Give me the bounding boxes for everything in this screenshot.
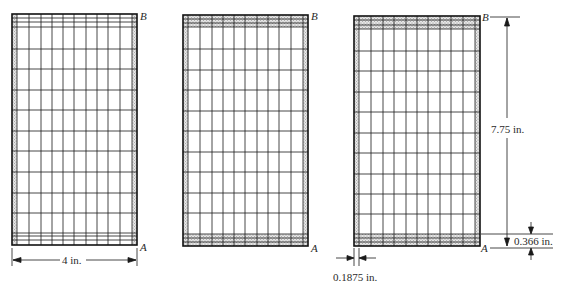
width-label: 4 in. <box>62 254 82 266</box>
slab-panel-3 <box>354 16 480 246</box>
slab-panel-2 <box>183 15 308 246</box>
label-b-1: B <box>140 10 147 22</box>
shaded-strip-top <box>183 15 308 27</box>
grid-lines <box>12 14 137 245</box>
edge-band-label: 0.366 in. <box>514 235 553 247</box>
height-label: 7.75 in. <box>491 123 525 135</box>
edge-strip-dimension <box>336 248 376 266</box>
grid-lines <box>183 15 308 246</box>
slab-panel-1 <box>12 14 137 245</box>
diagram-canvas: B A 4 in. <box>0 0 568 294</box>
label-a-3: A <box>480 242 488 254</box>
grid-lines <box>354 16 480 246</box>
label-a-1: A <box>139 241 147 253</box>
edge-strip-label: 0.1875 in. <box>333 271 378 283</box>
shaded-strip-bottom <box>183 234 308 246</box>
label-b-3: B <box>482 11 489 23</box>
panel-border <box>183 15 308 246</box>
label-a-2: A <box>310 242 318 254</box>
label-b-2: B <box>311 10 318 22</box>
